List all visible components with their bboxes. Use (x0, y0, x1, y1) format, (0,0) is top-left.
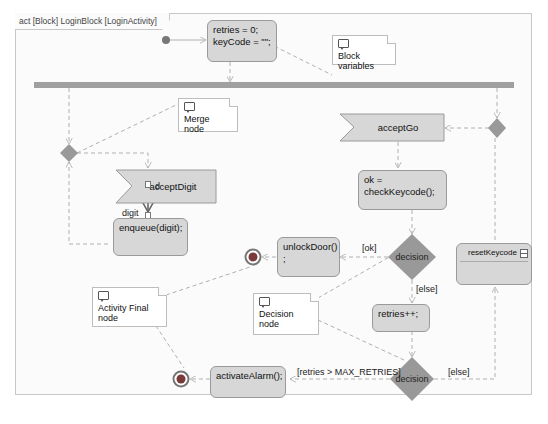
accept-go-label: acceptGo (378, 122, 419, 133)
reset-keycode-action[interactable]: resetKeycode (456, 243, 532, 285)
note-decision-node[interactable]: Decision node (253, 293, 319, 335)
fork-bar (34, 82, 514, 88)
retries-label: retries++; (378, 308, 418, 319)
accept-go-event[interactable]: acceptGo (352, 114, 444, 141)
init-action[interactable]: retries = 0; keyCode = ""; (207, 20, 277, 62)
edges-layer (0, 0, 548, 424)
enqueue-label: enqueue(digit); (119, 222, 182, 233)
pin-label-digit: digit (122, 208, 139, 218)
unlock-line-1: unlockDoor() (283, 241, 334, 253)
comment-icon (184, 102, 195, 111)
init-line-2: keyCode = ""; (213, 36, 271, 48)
guard-ok: [ok] (362, 243, 377, 253)
activate-alarm-label: activateAlarm(); (216, 370, 283, 381)
pin-label-d: d (155, 181, 160, 191)
check-keycode-action[interactable]: ok = checkKeycode(); (358, 170, 447, 210)
activate-alarm-action[interactable]: activateAlarm(); (210, 366, 286, 398)
note-merge-node[interactable]: Merge node (178, 98, 238, 132)
note-text: Merge node (184, 114, 210, 134)
check-keycode-label: ok = checkKeycode(); (364, 174, 435, 197)
note-activity-final[interactable]: Activity Final node (92, 287, 167, 327)
note-text: Decision node (259, 309, 294, 329)
comment-icon (259, 297, 270, 306)
note-block-variables[interactable]: Block variables (332, 35, 396, 65)
unlock-door-action[interactable]: unlockDoor() ; (277, 237, 340, 277)
reset-keycode-label: resetKeycode (468, 247, 517, 259)
call-behavior-icon (520, 249, 528, 258)
unlock-line-2: ; (283, 253, 334, 265)
guard-max-retries: [retries > MAX_RETRIES] (297, 367, 401, 377)
comment-icon (338, 39, 349, 48)
merge-node-left (60, 144, 78, 162)
initial-node (162, 36, 170, 44)
guard-else-2: [else] (448, 367, 470, 377)
init-line-1: retries = 0; (213, 24, 271, 36)
merge-node-right (488, 118, 506, 138)
note-text: Block variables (338, 51, 374, 71)
decision-1-label: decision (392, 252, 432, 262)
enqueue-action[interactable]: enqueue(digit); (113, 218, 188, 256)
retries-action[interactable]: retries++; (372, 304, 430, 332)
accept-digit-event[interactable]: acceptDigit (130, 170, 216, 203)
output-pin-d[interactable] (145, 181, 151, 188)
comment-icon (98, 291, 109, 300)
note-text: Activity Final node (98, 303, 149, 323)
guard-else-1: [else] (416, 284, 438, 294)
